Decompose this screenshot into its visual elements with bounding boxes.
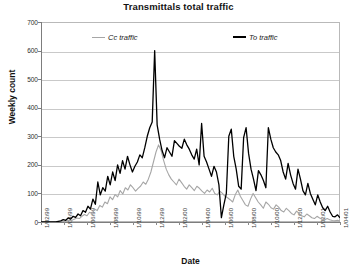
x-tick-label: 1/04/01 xyxy=(343,208,349,228)
series-plot xyxy=(41,22,340,222)
x-axis-title: Date xyxy=(41,256,340,266)
chart-container: Transmittals total traffic 0100200300400… xyxy=(0,0,357,273)
x-tick-mark xyxy=(317,222,318,225)
x-tick-mark xyxy=(133,222,134,225)
x-tick-mark xyxy=(340,222,341,225)
x-tick-mark xyxy=(271,222,272,225)
y-tick-label: 100 xyxy=(4,190,38,197)
x-tick-mark xyxy=(156,222,157,225)
x-tick-mark xyxy=(248,222,249,225)
x-tick-mark xyxy=(202,222,203,225)
y-axis-title: Weekly count xyxy=(7,52,17,142)
y-tick-label: 200 xyxy=(4,161,38,168)
x-tick-mark xyxy=(110,222,111,225)
x-tick-mark xyxy=(294,222,295,225)
x-tick-mark xyxy=(87,222,88,225)
chart-title: Transmittals total traffic xyxy=(0,1,357,12)
x-tick-mark xyxy=(41,222,42,225)
y-tick-label: 0 xyxy=(4,219,38,226)
x-axis-line xyxy=(41,222,341,223)
series-line-to-traffic xyxy=(41,51,340,222)
y-tick-label: 700 xyxy=(4,19,38,26)
x-tick-mark xyxy=(225,222,226,225)
y-axis-ticks: 0100200300400500600700 xyxy=(0,0,38,273)
x-tick-mark xyxy=(179,222,180,225)
x-tick-mark xyxy=(64,222,65,225)
